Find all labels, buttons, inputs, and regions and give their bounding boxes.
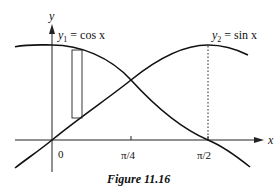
y-axis-label: y [48,9,55,23]
cos-label-rest: = cos x [67,28,105,42]
x-axis-arrow-icon [254,137,264,143]
cos-curve-label: y1 = cos x [57,28,105,44]
y-axis-arrow-icon [49,24,55,34]
tick-label-pi-over-2: π/2 [197,149,211,161]
y-axis [49,24,55,172]
figure-caption: Figure 11.16 [106,172,170,186]
area-strip-rectangle [72,50,82,118]
tick-label-pi-over-4: π/4 [121,149,136,161]
sin-label-rest: = sin x [221,28,257,42]
sin-curve-label: y2 = sin x [211,28,257,44]
x-axis-label: x [267,133,274,147]
origin-label: 0 [58,148,64,160]
figure-canvas: y x 0 π/4 π/2 y1 = cos x y2 = sin x Figu… [0,0,279,188]
